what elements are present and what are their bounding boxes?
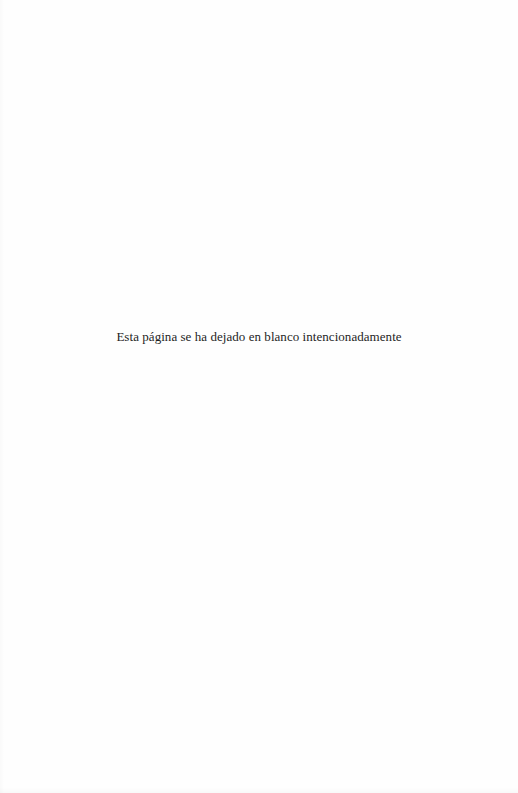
page-bottom-edge-shadow xyxy=(0,787,518,793)
page-left-edge-shadow xyxy=(0,0,4,793)
blank-book-page: Esta página se ha dejado en blanco inten… xyxy=(0,0,518,793)
intentionally-blank-notice: Esta página se ha dejado en blanco inten… xyxy=(0,329,518,345)
